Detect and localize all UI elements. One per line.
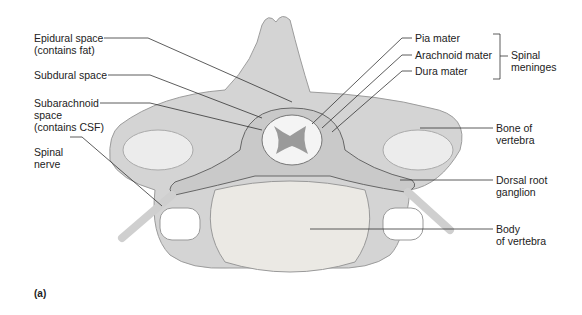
label-line: space: [34, 109, 104, 121]
label-bone-of-vertebra: Bone of vertebra: [496, 122, 535, 146]
label-spinal-meninges: Spinal meninges: [511, 49, 557, 73]
label-subarachnoid-space: Subarachnoid space (contains CSF): [34, 97, 104, 133]
label-line: Subarachnoid: [34, 97, 104, 109]
vertebral-body: [210, 181, 369, 272]
label-line: vertebra: [496, 134, 535, 146]
label-dura-mater: Dura mater: [415, 65, 468, 77]
label-line: Arachnoid mater: [415, 49, 492, 61]
label-line: Bone of: [496, 122, 535, 134]
label-spinal-nerve: Spinal nerve: [34, 146, 63, 170]
label-line: of vertebra: [496, 235, 546, 247]
label-line: (contains fat): [34, 44, 103, 56]
label-line: Spinal: [511, 49, 557, 61]
label-line: Spinal: [34, 146, 63, 158]
right-transverse-foramen: [383, 208, 423, 240]
label-dorsal-root-ganglion: Dorsal root ganglion: [496, 174, 547, 198]
label-line: Dorsal root: [496, 174, 547, 186]
label-line: Pia mater: [415, 32, 460, 44]
label-pia-mater: Pia mater: [415, 32, 460, 44]
label-epidural-space: Epidural space (contains fat): [34, 32, 103, 56]
label-arachnoid-mater: Arachnoid mater: [415, 49, 492, 61]
panel-label: (a): [34, 288, 46, 299]
label-body-of-vertebra: Body of vertebra: [496, 223, 546, 247]
right-articular-facet: [383, 130, 453, 170]
label-line: Epidural space: [34, 32, 103, 44]
label-line: (contains CSF): [34, 121, 104, 133]
left-articular-facet: [123, 130, 193, 170]
label-subdural-space: Subdural space: [34, 69, 107, 81]
label-line: Body: [496, 223, 546, 235]
left-transverse-foramen: [160, 208, 200, 240]
label-line: Subdural space: [34, 69, 107, 81]
label-line: Dura mater: [415, 65, 468, 77]
label-line: meninges: [511, 61, 557, 73]
label-line: nerve: [34, 158, 63, 170]
label-line: ganglion: [496, 186, 547, 198]
